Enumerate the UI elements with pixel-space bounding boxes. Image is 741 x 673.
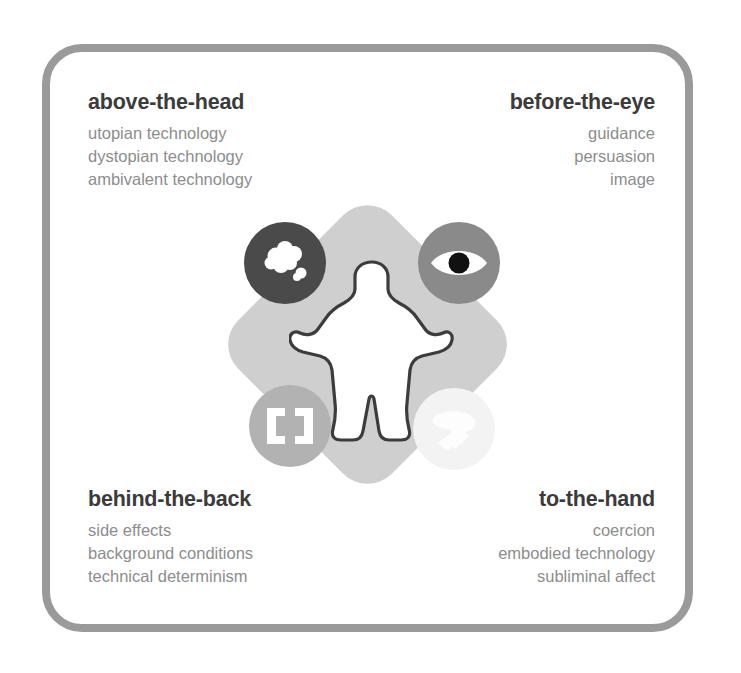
cloud-glyph: [257, 235, 313, 291]
quadrant-item: embodied technology: [498, 545, 655, 562]
quadrant-item: background conditions: [88, 545, 253, 562]
hand-icon[interactable]: [413, 388, 495, 470]
quadrant-item: dystopian technology: [88, 148, 252, 165]
quadrant-title-before-the-eye: before-the-eye: [510, 92, 655, 114]
center-graphic: [205, 183, 530, 508]
quadrant-title-above-the-head: above-the-head: [88, 92, 252, 114]
cloud-icon[interactable]: [244, 222, 326, 304]
quadrant-item: side effects: [88, 522, 253, 539]
brackets-icon[interactable]: [249, 385, 331, 467]
diagram-canvas: above-the-head utopian technology dystop…: [0, 0, 741, 673]
eye-glyph: [428, 243, 490, 283]
quadrant-item: guidance: [510, 125, 655, 142]
quadrant-item: technical determinism: [88, 568, 253, 585]
brackets-glyph: [265, 408, 315, 444]
quadrant-item: subliminal affect: [498, 568, 655, 585]
quadrant-item: persuasion: [510, 148, 655, 165]
hand-glyph: [428, 407, 480, 451]
quadrant-item: utopian technology: [88, 125, 252, 142]
quadrant-before-the-eye: before-the-eye guidance persuasion image: [510, 92, 655, 194]
quadrant-above-the-head: above-the-head utopian technology dystop…: [88, 92, 252, 194]
eye-icon[interactable]: [418, 222, 500, 304]
quadrant-item: image: [510, 171, 655, 188]
quadrant-item: coercion: [498, 522, 655, 539]
